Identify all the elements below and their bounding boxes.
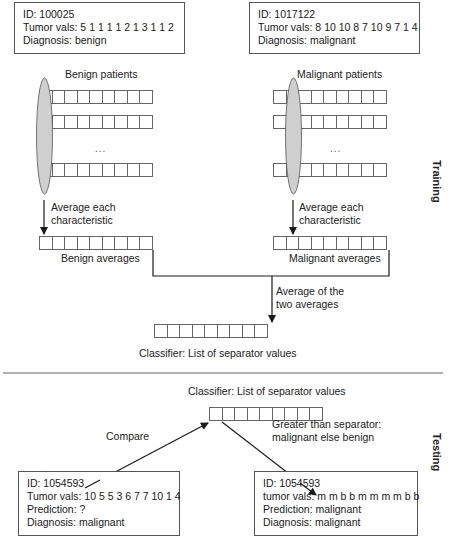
rule-label: Greater than separator: malignant else b… xyxy=(272,418,381,443)
malignant-example-tumor-vals: Tumor vals: 8 10 10 8 7 10 9 7 1 4 xyxy=(258,21,411,34)
benign-patient-row xyxy=(39,163,152,177)
benign-example-id: ID: 100025 xyxy=(23,8,176,21)
input-patient-tumor-vals: Tumor vals: 10 5 5 3 6 7 7 10 1 4 xyxy=(27,490,171,503)
combine-step-label: Average of the two averages xyxy=(276,285,344,310)
malignant-patient-row xyxy=(273,115,386,129)
malignant-averages-label: Malignant averages xyxy=(289,252,381,265)
malignant-group-label: Malignant patients xyxy=(297,68,382,81)
malignant-averages-row xyxy=(273,236,386,250)
connector-layer xyxy=(0,0,451,544)
output-patient-tumor-vals: tumor vals: m m b b m m m m b b xyxy=(263,490,409,503)
benign-ellipsis: ... xyxy=(95,143,106,154)
malignant-example-id: ID: 1017122 xyxy=(258,8,411,21)
output-patient-diagnosis: Diagnosis: malignant xyxy=(263,516,409,529)
input-patient-id: ID: 1054593 xyxy=(27,477,171,490)
testing-classifier-label: Classifier: List of separator values xyxy=(188,385,346,398)
benign-average-step-label: Average each characteristic xyxy=(51,201,116,226)
benign-patient-row xyxy=(39,90,152,104)
malignant-example-card: ID: 1017122 Tumor vals: 8 10 10 8 7 10 9… xyxy=(249,2,420,54)
output-patient-card: ID: 1054593 tumor vals: m m b b m m m m … xyxy=(254,471,418,536)
classifier-label: Classifier: List of separator values xyxy=(139,347,297,360)
benign-averages-label: Benign averages xyxy=(61,252,140,265)
malignant-patient-row xyxy=(273,90,386,104)
training-section-label: Training xyxy=(431,160,443,203)
input-patient-prediction: Prediction: ? xyxy=(27,503,171,516)
input-patient-card: ID: 1054593 Tumor vals: 10 5 5 3 6 7 7 1… xyxy=(18,471,180,536)
malignant-patient-row xyxy=(273,163,386,177)
malignant-ellipsis: ... xyxy=(330,143,341,154)
testing-section-label: Testing xyxy=(431,433,443,471)
benign-example-card: ID: 100025 Tumor vals: 5 1 1 1 1 2 1 3 1… xyxy=(14,2,185,54)
output-patient-id: ID: 1054593 xyxy=(263,477,409,490)
input-patient-diagnosis: Diagnosis: malignant xyxy=(27,516,171,529)
benign-patient-row xyxy=(39,115,152,129)
compare-label: Compare xyxy=(106,430,149,443)
output-patient-prediction: Prediction: malignant xyxy=(263,503,409,516)
classifier-row xyxy=(154,324,267,338)
benign-example-diagnosis: Diagnosis: benign xyxy=(23,34,176,47)
malignant-example-diagnosis: Diagnosis: malignant xyxy=(258,34,411,47)
benign-group-label: Benign patients xyxy=(65,68,137,81)
benign-averages-row xyxy=(39,236,152,250)
benign-example-tumor-vals: Tumor vals: 5 1 1 1 1 2 1 3 1 1 2 xyxy=(23,21,176,34)
malignant-average-step-label: Average each characteristic xyxy=(299,201,364,226)
